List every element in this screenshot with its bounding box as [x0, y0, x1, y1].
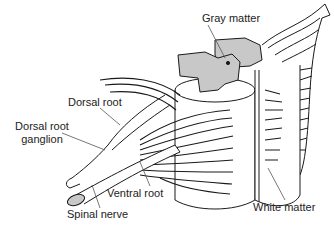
- spinal-cord-illustration: [0, 0, 334, 231]
- white-matter-left-column: [175, 78, 255, 209]
- label-dorsal-root-ganglion: Dorsal root ganglion: [10, 120, 74, 146]
- label-spinal-nerve: Spinal nerve: [67, 208, 128, 221]
- label-dorsal-root: Dorsal root: [68, 96, 122, 109]
- label-ventral-root: Ventral root: [107, 187, 163, 200]
- label-gray-matter: Gray matter: [202, 12, 260, 25]
- label-dorsal-root-ganglion-line1: Dorsal root: [10, 120, 74, 133]
- label-white-matter: White matter: [253, 201, 315, 214]
- white-matter-right-column: [255, 65, 300, 206]
- label-dorsal-root-ganglion-line2: ganglion: [10, 133, 74, 146]
